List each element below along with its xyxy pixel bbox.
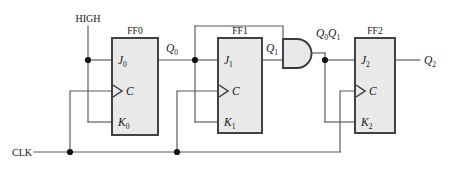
circuit-canvas: HIGH CLK FF0 J0 C K0 FF1 J1 C K1 FF2 J2 …	[0, 0, 452, 173]
label-ff1-c: C	[232, 85, 240, 97]
junction-clk-ff0	[67, 149, 73, 155]
label-high: HIGH	[76, 13, 101, 24]
label-ff2-title: FF2	[367, 25, 383, 36]
label-ff1-title: FF1	[232, 25, 248, 36]
junction-clk-ff1	[174, 149, 180, 155]
junction-high-j0	[85, 57, 91, 63]
label-ff0-title: FF0	[127, 25, 143, 36]
junction-and-out	[322, 57, 328, 63]
label-signal-q1: Q1	[266, 42, 278, 57]
logic-circuit-diagram: HIGH CLK FF0 J0 C K0 FF1 J1 C K1 FF2 J2 …	[0, 0, 452, 173]
and-gate-body	[283, 39, 312, 68]
label-ff2-c: C	[369, 85, 377, 97]
label-signal-q2: Q2	[424, 54, 436, 69]
label-signal-q0: Q0	[166, 42, 178, 57]
label-clk: CLK	[12, 147, 33, 158]
label-signal-and-out: Q0Q1	[316, 27, 340, 42]
label-ff0-c: C	[126, 85, 134, 97]
junction-q0	[192, 57, 198, 63]
